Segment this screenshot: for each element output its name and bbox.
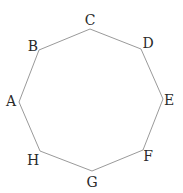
vertex-label-f: F [143,148,153,164]
vertex-label-e: E [164,92,174,108]
octagon-svg: ABCDEFGH [0,0,183,193]
vertex-label-d: D [142,35,153,51]
vertex-labels: ABCDEFGH [5,12,174,190]
vertex-label-h: H [27,152,39,168]
vertex-label-b: B [28,38,38,54]
vertex-label-a: A [5,93,17,109]
vertex-label-c: C [85,12,96,28]
octagon-diagram: ABCDEFGH [0,0,183,193]
vertex-label-g: G [86,174,97,190]
